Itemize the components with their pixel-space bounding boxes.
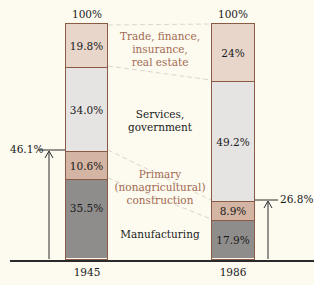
baseline <box>10 260 314 262</box>
marker-left-46-1: 46.1% <box>10 143 43 155</box>
marker-right-26-8: 26.8% <box>280 193 313 205</box>
bar-1945-top-label: 100% <box>57 8 117 20</box>
segment-value: 10.6% <box>70 160 103 172</box>
bar-1986-top-label: 100% <box>203 8 263 20</box>
year-label-1945: 1945 <box>57 266 117 278</box>
segment-value: 35.5% <box>70 202 103 214</box>
label-primary: Primary (nonagricultural) construction <box>100 168 220 207</box>
label-trade: Trade, finance, insurance, real estate <box>100 30 220 69</box>
segment-value: 24% <box>221 47 244 59</box>
label-manufacturing: Manufacturing <box>100 228 220 241</box>
segment-value: 8.9% <box>220 205 247 217</box>
segment-value: 19.8% <box>70 40 103 52</box>
segment-value: 49.2% <box>216 136 249 148</box>
segment-value: 34.0% <box>70 104 103 116</box>
year-label-1986: 1986 <box>203 266 263 278</box>
segment-value: 17.9% <box>216 234 249 246</box>
label-services: Services, government <box>100 108 220 134</box>
